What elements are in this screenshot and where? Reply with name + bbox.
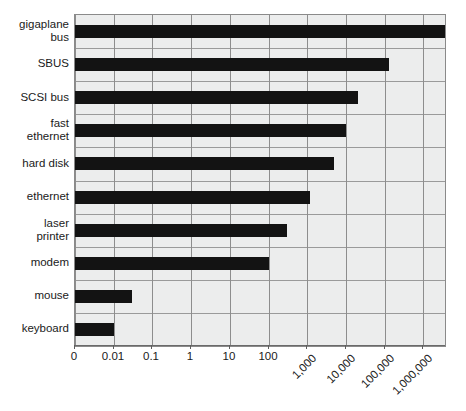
y-axis-label: mouse <box>1 289 69 302</box>
bar <box>75 91 358 104</box>
bar <box>75 124 346 137</box>
y-axis-label: gigaplane bus <box>1 18 69 43</box>
horizontal-gridline <box>75 48 445 49</box>
x-axis-tick-label: 1,000,000 <box>390 352 435 397</box>
horizontal-gridline <box>75 181 445 182</box>
bandwidth-bar-chart: gigaplane busSBUSSCSI busfast ethernetha… <box>0 0 466 411</box>
bar <box>75 257 269 270</box>
y-axis-label: ethernet <box>1 190 69 203</box>
x-axis-tickmark <box>345 345 346 349</box>
bar <box>75 224 287 237</box>
vertical-gridline <box>423 15 424 346</box>
x-axis-tickmark <box>190 345 191 349</box>
bar <box>75 58 389 71</box>
horizontal-gridline <box>75 81 445 82</box>
horizontal-gridline <box>75 214 445 215</box>
x-axis-tickmark <box>268 345 269 349</box>
bar <box>75 157 334 170</box>
bar <box>75 25 445 38</box>
x-axis-line <box>74 345 445 346</box>
x-axis-tickmark <box>229 345 230 349</box>
x-axis-tick-label: 1 <box>187 350 193 362</box>
x-axis-tick-label: 10 <box>223 350 236 362</box>
x-axis-tickmark <box>422 345 423 349</box>
y-axis-label: laser printer <box>1 217 69 242</box>
x-axis-tick-label: 0 <box>71 350 77 362</box>
y-axis-label: keyboard <box>1 322 69 335</box>
x-axis-tickmark <box>384 345 385 349</box>
x-axis-tick-label: 10,000 <box>324 352 357 385</box>
y-axis-label: SBUS <box>1 57 69 70</box>
x-axis-tick-label: 100,000 <box>359 352 397 390</box>
x-axis-tickmark <box>74 345 75 349</box>
horizontal-gridline <box>75 114 445 115</box>
x-axis-tickmark <box>113 345 114 349</box>
horizontal-gridline <box>75 280 445 281</box>
x-axis-tickmark <box>151 345 152 349</box>
x-axis-tickmark <box>306 345 307 349</box>
y-axis-label: fast ethernet <box>1 117 69 142</box>
y-axis-label: SCSI bus <box>1 91 69 104</box>
x-axis-tick-label: 1,000 <box>290 352 319 381</box>
horizontal-gridline <box>75 247 445 248</box>
bar <box>75 191 310 204</box>
bar <box>75 290 132 303</box>
x-axis-tick-label: 0.01 <box>102 350 124 362</box>
y-axis-label: modem <box>1 256 69 269</box>
y-axis-category-labels: gigaplane busSBUSSCSI busfast ethernetha… <box>0 14 69 345</box>
horizontal-gridline <box>75 313 445 314</box>
x-axis-tick-label: 100 <box>258 350 277 362</box>
bar <box>75 323 114 336</box>
plot-area <box>74 14 446 347</box>
x-axis-tick-label: 0.1 <box>143 350 159 362</box>
y-axis-label: hard disk <box>1 157 69 170</box>
horizontal-gridline <box>75 147 445 148</box>
